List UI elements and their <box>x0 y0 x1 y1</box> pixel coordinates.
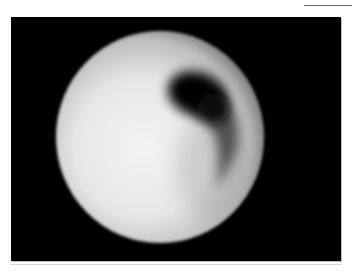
micrograph-panel <box>11 17 341 261</box>
sphere-image <box>11 17 341 261</box>
bottom-rule-line <box>10 264 342 265</box>
top-rule-line <box>304 5 352 6</box>
